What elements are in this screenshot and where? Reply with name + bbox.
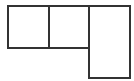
diagram-canvas <box>0 0 134 81</box>
box-top-left <box>7 5 50 49</box>
box-tall-right <box>88 5 131 79</box>
box-top-middle <box>48 5 90 49</box>
